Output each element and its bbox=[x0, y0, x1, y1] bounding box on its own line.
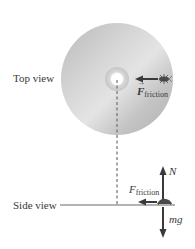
friction-label-side: Ffriction bbox=[129, 184, 159, 195]
weight-force-arrow bbox=[160, 207, 167, 238]
weight-force-label: mg bbox=[169, 214, 182, 225]
normal-force-arrow bbox=[160, 166, 167, 199]
top-view-label: Top view bbox=[13, 73, 54, 84]
diagram-canvas bbox=[0, 0, 195, 249]
normal-force-label: N bbox=[169, 166, 176, 177]
bug-icon-side bbox=[157, 199, 172, 205]
side-view-label: Side view bbox=[13, 200, 57, 211]
friction-label-top: → Ffriction bbox=[137, 86, 168, 97]
vector-arrow-icon: → bbox=[137, 79, 145, 87]
